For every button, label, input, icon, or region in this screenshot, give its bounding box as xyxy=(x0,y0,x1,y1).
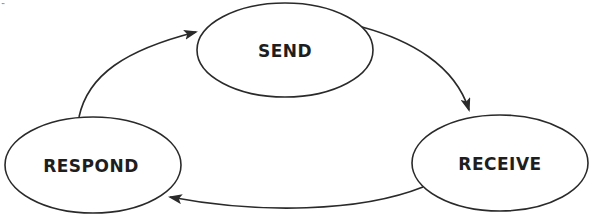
arrow-receive-to-respond xyxy=(170,187,423,208)
arrow-send-to-receive xyxy=(362,27,469,110)
cycle-diagram xyxy=(0,0,590,214)
node-receive-ellipse xyxy=(412,115,588,211)
node-respond-ellipse xyxy=(5,117,181,213)
node-send-ellipse xyxy=(197,3,373,97)
arrow-respond-to-send xyxy=(79,32,196,117)
corner-mark: ·· xyxy=(1,1,4,9)
